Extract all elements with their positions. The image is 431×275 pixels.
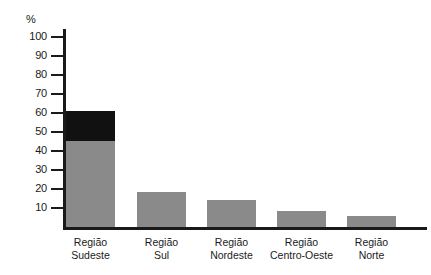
y-axis-tick-label: 60 [7,107,47,118]
y-axis-tick-mark [51,74,63,76]
bar [137,192,186,227]
category-label-line: Região [312,236,431,249]
y-axis-tick-label: 90 [7,50,47,61]
y-axis-unit-label: % [26,14,36,25]
y-axis-tick-label: 20 [7,183,47,194]
bar-segment-base [207,200,256,227]
bar-chart: % 100908070605040302010 RegiãoSudesteReg… [0,0,431,275]
bar-segment-base [347,216,396,227]
bar-segment-base [66,141,115,227]
bar-segment-base [137,192,186,227]
y-axis-tick-mark [51,150,63,152]
y-axis-tick-mark [51,131,63,133]
y-axis-tick-mark [51,93,63,95]
y-axis-tick-mark [51,36,63,38]
x-axis-category-label: RegiãoNorte [312,236,431,262]
bar [207,200,256,227]
bar-segment-highlight [66,111,115,141]
y-axis-tick-label: 100 [7,31,47,42]
y-axis-tick-mark [51,188,63,190]
y-axis-tick-mark [51,112,63,114]
y-axis-tick-mark [51,55,63,57]
y-axis-tick-mark [51,207,63,209]
x-axis-line [63,227,427,230]
category-label-line: Norte [312,249,431,262]
y-axis-tick-label: 80 [7,69,47,80]
bar [347,216,396,227]
cropped-text-artifact [0,0,431,7]
y-axis-tick-label: 70 [7,88,47,99]
bar [277,211,326,227]
bar [66,111,115,227]
y-axis-tick-label: 10 [7,202,47,213]
y-axis-tick-label: 30 [7,164,47,175]
y-axis-tick-mark [51,169,63,171]
y-axis-tick-label: 50 [7,126,47,137]
bar-segment-base [277,211,326,227]
y-axis-tick-label: 40 [7,145,47,156]
